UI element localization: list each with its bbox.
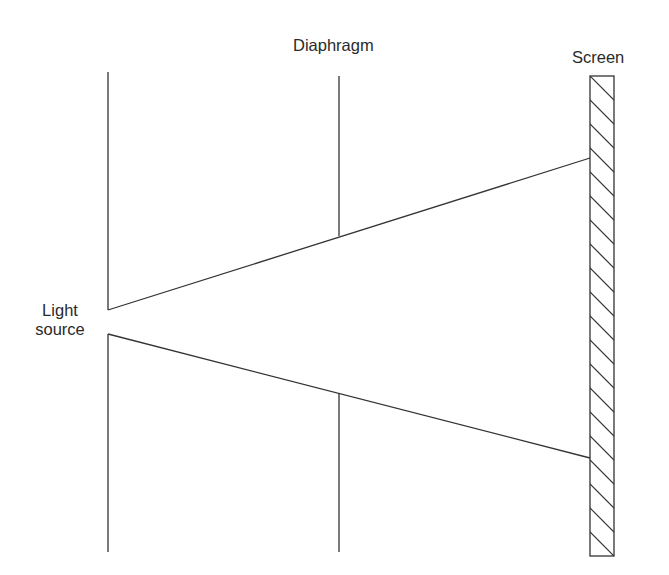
light-source-label-line1: Light bbox=[28, 301, 92, 320]
diaphragm-label: Diaphragm bbox=[293, 36, 374, 55]
ray-upper bbox=[108, 158, 590, 310]
optics-diagram bbox=[0, 0, 669, 575]
screen-label: Screen bbox=[572, 48, 624, 67]
screen-hatching bbox=[590, 52, 614, 556]
light-source-label: Light source bbox=[28, 301, 92, 339]
ray-lower bbox=[108, 334, 590, 458]
light-source-label-line2: source bbox=[28, 320, 92, 339]
screen-box bbox=[590, 76, 614, 556]
